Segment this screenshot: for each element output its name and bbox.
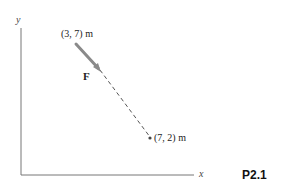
problem-number: P2.1 [242, 168, 267, 182]
force-arrow [76, 44, 98, 68]
start-point-label: (3, 7) m [61, 28, 93, 39]
line-of-action [100, 70, 150, 137]
x-axis-label: x [199, 168, 203, 179]
end-point-label: (7, 2) m [154, 132, 186, 143]
diagram-canvas [0, 0, 283, 186]
end-point [148, 136, 151, 139]
force-label: F [83, 70, 90, 82]
y-axis-label: y [16, 14, 20, 25]
